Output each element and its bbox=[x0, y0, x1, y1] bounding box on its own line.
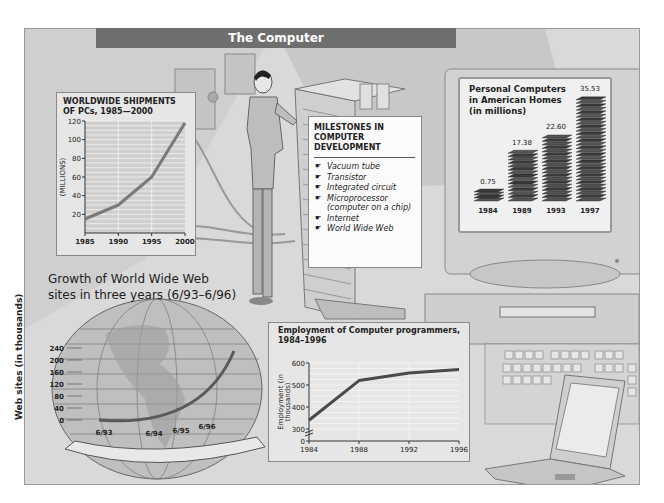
shipments-chart: 204060801001201985199019952000(MILLIONS) bbox=[57, 93, 195, 255]
milestones-box: MILESTONES IN COMPUTER DEVELOPMENT ☛Vacu… bbox=[308, 116, 422, 268]
bar-segment bbox=[508, 150, 538, 153]
bar-segment bbox=[542, 194, 572, 197]
bar-segment bbox=[576, 128, 606, 131]
x-tick-label: 1992 bbox=[400, 446, 418, 454]
bar bbox=[508, 150, 538, 201]
bar-segment bbox=[576, 177, 606, 180]
milestones-list: ☛Vacuum tube ☛Transistor ☛Integrated cir… bbox=[309, 162, 421, 234]
y-axis-label: thousands) bbox=[284, 382, 292, 421]
milestone-text: World Wide Web bbox=[327, 224, 394, 233]
y-tick-label: 40 bbox=[72, 192, 81, 200]
shipments-chart-panel: WORLDWIDE SHIPMENTS OF PCs, 1985—2000 20… bbox=[56, 92, 196, 256]
y-tick-label: 80 bbox=[72, 155, 81, 163]
y-tick-label: 120 bbox=[49, 381, 64, 389]
bar-segment bbox=[576, 167, 606, 170]
x-tick-label: 1984 bbox=[478, 207, 498, 215]
bar-segment bbox=[576, 146, 606, 149]
x-tick-label: 1997 bbox=[580, 207, 600, 215]
web-growth-chart: 040801201602002406/936/946/956/96 bbox=[24, 300, 284, 500]
employment-chart: 03004005006001984198819921996Employment … bbox=[269, 323, 469, 461]
pointing-hand-icon: ☛ bbox=[315, 183, 321, 193]
bar-segment bbox=[576, 156, 606, 159]
bar-segment bbox=[576, 142, 606, 145]
bar-segment bbox=[576, 191, 606, 194]
bar-segment bbox=[576, 195, 606, 198]
bar-segment bbox=[576, 135, 606, 138]
milestone-text: Microprocessor (computer on a chip) bbox=[327, 194, 411, 213]
bar-segment bbox=[576, 97, 606, 100]
y-tick-label: 100 bbox=[68, 136, 81, 144]
pointing-hand-icon: ☛ bbox=[315, 173, 321, 183]
x-tick-label: 6/93 bbox=[95, 429, 112, 437]
bar-segment bbox=[576, 107, 606, 110]
bar-segment bbox=[508, 188, 538, 191]
series-line bbox=[99, 351, 234, 421]
milestone-item: ☛Integrated circuit bbox=[315, 183, 417, 193]
bar-segment bbox=[508, 195, 538, 198]
home-pcs-chart-panel: Personal Computers in American Homes (in… bbox=[458, 77, 612, 233]
x-tick-label: 1990 bbox=[109, 238, 129, 246]
x-tick-label: 1988 bbox=[350, 446, 368, 454]
bar-segment bbox=[508, 198, 538, 201]
y-tick-label: 20 bbox=[72, 211, 81, 219]
milestones-title-line-3: DEVELOPMENT bbox=[314, 143, 409, 153]
y-tick-label: 0 bbox=[301, 438, 305, 446]
bar-segment bbox=[576, 188, 606, 191]
y-tick-label: 300 bbox=[292, 426, 305, 434]
milestone-text: Vacuum tube bbox=[327, 162, 380, 171]
y-tick-label: 40 bbox=[54, 405, 64, 413]
bar-segment bbox=[576, 163, 606, 166]
bar-segment bbox=[576, 170, 606, 173]
bar-segment bbox=[576, 181, 606, 184]
bar-segment bbox=[508, 164, 538, 167]
bar-segment bbox=[576, 139, 606, 142]
bar-segment bbox=[474, 192, 504, 195]
y-axis-label: (MILLIONS) bbox=[59, 157, 67, 196]
x-tick-label: 1993 bbox=[546, 207, 566, 215]
pointing-hand-icon: ☛ bbox=[315, 224, 321, 234]
bar-segment bbox=[576, 118, 606, 121]
bar-segment bbox=[576, 100, 606, 103]
bar-segment bbox=[542, 142, 572, 145]
pointing-hand-icon: ☛ bbox=[315, 194, 321, 204]
home-pcs-chart: 0.75198417.38198922.60199335.531997 bbox=[460, 79, 610, 231]
bar-segment bbox=[576, 149, 606, 152]
y-tick-label: 160 bbox=[49, 369, 64, 377]
bar-segment bbox=[542, 159, 572, 162]
bar-segment bbox=[576, 104, 606, 107]
bar-segment bbox=[542, 166, 572, 169]
employment-chart-panel: Employment of Computer programmers, 1984… bbox=[268, 322, 470, 462]
bar-segment bbox=[542, 149, 572, 152]
bar-segment bbox=[474, 198, 504, 201]
page-title: The Computer bbox=[96, 28, 456, 48]
x-tick-label: 2000 bbox=[175, 238, 195, 246]
bar-segment bbox=[508, 184, 538, 187]
y-tick-label: 0 bbox=[59, 417, 64, 425]
milestones-title: MILESTONES IN COMPUTER DEVELOPMENT bbox=[314, 117, 415, 158]
bar bbox=[474, 189, 504, 201]
bar-segment bbox=[576, 132, 606, 135]
bar-segment bbox=[508, 178, 538, 181]
bar-segment bbox=[542, 138, 572, 141]
y-tick-label: 400 bbox=[292, 404, 305, 412]
value-label: 22.60 bbox=[546, 123, 566, 131]
milestone-item: ☛World Wide Web bbox=[315, 224, 417, 234]
x-tick-label: 6/94 bbox=[145, 430, 162, 438]
bar-segment bbox=[542, 156, 572, 159]
bar-segment bbox=[576, 174, 606, 177]
bar-segment bbox=[474, 189, 504, 192]
bar-segment bbox=[508, 160, 538, 163]
bar-segment bbox=[508, 171, 538, 174]
milestone-item: ☛Vacuum tube bbox=[315, 162, 417, 172]
x-tick-label: 1984 bbox=[300, 446, 318, 454]
bar-segment bbox=[576, 111, 606, 114]
bar-segment bbox=[474, 195, 504, 198]
bar-segment bbox=[576, 198, 606, 201]
bar-segment bbox=[508, 174, 538, 177]
bar-segment bbox=[576, 114, 606, 117]
web-growth-ylabel: Web sites (in thousands) bbox=[14, 294, 24, 420]
bar-segment bbox=[542, 191, 572, 194]
milestones-title-line-2: COMPUTER bbox=[314, 133, 409, 143]
value-label: 35.53 bbox=[580, 85, 600, 93]
y-tick-label: 240 bbox=[49, 345, 64, 353]
